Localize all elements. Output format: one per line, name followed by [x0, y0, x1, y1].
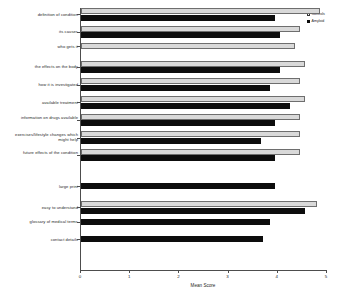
category-label: information on drugs available	[4, 115, 78, 120]
x-axis-tick	[178, 270, 179, 273]
bar-controls	[81, 96, 305, 102]
y-axis-tick	[77, 14, 80, 15]
bar-controls	[81, 201, 317, 207]
x-axis-tick-label: 2	[168, 274, 188, 279]
x-axis-tick	[228, 270, 229, 273]
chart-category-row: large print	[0, 183, 341, 201]
chart-category-row: contact details	[0, 236, 341, 254]
chart-category-row: exercises/lifestyle changes which might …	[0, 131, 341, 149]
bar-amyloid	[81, 155, 275, 161]
bar-amyloid	[81, 183, 275, 189]
x-axis-line	[80, 270, 326, 271]
y-axis-tick	[77, 67, 80, 68]
bar-controls	[81, 61, 305, 67]
category-label: exercises/lifestyle changes which might …	[4, 132, 78, 142]
x-axis-tick	[80, 270, 81, 273]
y-axis-tick	[77, 239, 80, 240]
chart-category-row: information on drugs available	[0, 114, 341, 132]
bar-controls	[81, 149, 300, 155]
bar-amyloid	[81, 138, 261, 144]
chart-category-row: glossary of medical terms	[0, 219, 341, 237]
y-axis-tick	[77, 207, 80, 208]
x-axis-tick	[277, 270, 278, 273]
x-axis-title: Mean Score	[80, 283, 326, 288]
bar-amyloid	[81, 67, 280, 73]
bar-amyloid	[81, 120, 275, 126]
y-axis-tick	[77, 120, 80, 121]
bar-controls	[81, 78, 300, 84]
chart-category-row: definition of condition	[0, 8, 341, 26]
chart-category-row: the effects on the body	[0, 61, 341, 79]
x-axis-tick-label: 0	[70, 274, 90, 279]
y-axis-tick	[77, 155, 80, 156]
bar-controls	[81, 43, 295, 49]
bar-controls	[81, 8, 320, 14]
chart-category-row: who gets it	[0, 43, 341, 61]
chart-category-row: future effects of the condition	[0, 149, 341, 167]
category-label: contact details	[4, 237, 78, 242]
bar-controls	[81, 114, 300, 120]
bar-amyloid	[81, 103, 290, 109]
chart-category-row: its causes	[0, 26, 341, 44]
chart-category-row: how it is investigated	[0, 78, 341, 96]
y-axis-tick	[77, 186, 80, 187]
x-axis-tick-label: 5	[316, 274, 336, 279]
bar-amyloid	[81, 236, 263, 242]
x-axis-tick-label: 1	[119, 274, 139, 279]
bar-chart: 012345 Mean Score Controls Amyloid defin…	[0, 0, 341, 294]
y-axis-tick	[77, 138, 80, 139]
category-label: easy to understand	[4, 205, 78, 210]
y-axis-tick	[77, 46, 80, 47]
chart-category-row: easy to understand	[0, 201, 341, 219]
category-label: available treatment	[4, 100, 78, 105]
bar-controls	[81, 131, 300, 137]
bar-amyloid	[81, 208, 305, 214]
x-axis-tick	[129, 270, 130, 273]
category-label: its causes	[4, 29, 78, 34]
x-axis-tick-label: 3	[218, 274, 238, 279]
bar-amyloid	[81, 85, 270, 91]
x-axis-tick	[326, 270, 327, 273]
chart-category-row: available treatment	[0, 96, 341, 114]
bar-amyloid	[81, 219, 270, 225]
category-label: how it is investigated	[4, 82, 78, 87]
y-axis-tick	[77, 102, 80, 103]
bar-controls	[81, 26, 300, 32]
category-label: definition of condition	[4, 12, 78, 17]
category-label: the effects on the body	[4, 64, 78, 69]
category-label: future effects of the condition	[4, 150, 78, 155]
x-axis-tick-label: 4	[267, 274, 287, 279]
bar-amyloid	[81, 32, 280, 38]
bar-amyloid	[81, 15, 275, 21]
category-label: glossary of medical terms	[4, 219, 78, 224]
category-label: who gets it	[4, 44, 78, 49]
y-axis-tick	[77, 222, 80, 223]
category-label: large print	[4, 184, 78, 189]
y-axis-tick	[77, 32, 80, 33]
y-axis-tick	[77, 85, 80, 86]
